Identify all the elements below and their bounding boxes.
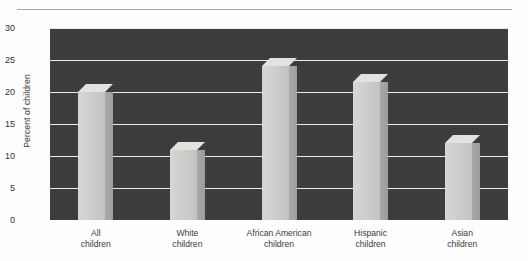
y-tick-label-30: 30 [0, 23, 15, 33]
plot-area [50, 28, 508, 220]
x-tick-label-line: children [81, 239, 111, 250]
gridline-30 [50, 28, 508, 29]
x-tick-label-0: Allchildren [81, 228, 111, 250]
bar-2 [262, 66, 289, 220]
x-tick-label-line: children [354, 239, 387, 250]
bar-side-face-3 [380, 82, 388, 220]
bar-front-face-2 [262, 66, 289, 220]
x-tick-label-line: children [247, 239, 312, 250]
bar-side-face-4 [472, 143, 480, 220]
x-tick-label-1: Whitechildren [172, 228, 202, 250]
y-tick-label-15: 15 [0, 119, 15, 129]
bar-top-face-3 [353, 74, 388, 82]
bar-side-face-0 [105, 92, 113, 220]
x-tick-label-line: children [447, 239, 477, 250]
bar-front-face-0 [78, 92, 105, 220]
x-tick-label-2: African Americanchildren [247, 228, 312, 250]
bar-top-face-0 [78, 84, 113, 92]
x-tick-label-line: children [172, 239, 202, 250]
bar-front-face-4 [445, 143, 472, 220]
bar-0 [78, 92, 105, 220]
bar-front-face-1 [170, 150, 197, 220]
y-tick-label-10: 10 [0, 151, 15, 161]
bar-top-face-2 [262, 58, 297, 66]
x-tick-label-line: Asian [447, 228, 477, 239]
bar-4 [445, 143, 472, 220]
x-tick-label-line: White [172, 228, 202, 239]
x-tick-label-line: African American [247, 228, 312, 239]
bar-top-face-4 [445, 135, 480, 143]
y-tick-label-5: 5 [0, 183, 15, 193]
y-tick-label-25: 25 [0, 55, 15, 65]
bar-front-face-3 [353, 82, 380, 220]
bar-chart-figure: Percent of children 051015202530 Allchil… [0, 0, 528, 261]
y-tick-label-20: 20 [0, 87, 15, 97]
bar-top-face-1 [170, 142, 205, 150]
bottom-caption [24, 252, 464, 261]
header-rule [17, 9, 512, 10]
y-tick-label-0: 0 [0, 215, 15, 225]
x-tick-label-line: All [81, 228, 111, 239]
bar-side-face-1 [197, 150, 205, 220]
x-tick-label-line: Hispanic [354, 228, 387, 239]
bar-side-face-2 [289, 66, 297, 220]
y-axis-title: Percent of children [22, 36, 32, 186]
x-tick-label-3: Hispanicchildren [354, 228, 387, 250]
bar-1 [170, 150, 197, 220]
bar-3 [353, 82, 380, 220]
x-tick-label-4: Asianchildren [447, 228, 477, 250]
